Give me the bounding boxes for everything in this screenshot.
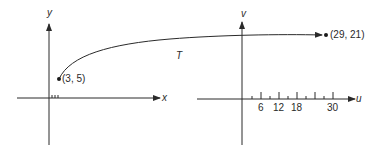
diagram-graphics <box>0 0 377 154</box>
u-tick-label-12: 12 <box>273 103 284 113</box>
end-point-label: (29, 21) <box>330 30 364 40</box>
start-point-label: (3, 5) <box>62 74 85 84</box>
transformation-label: T <box>176 51 182 61</box>
right-axes <box>197 22 355 145</box>
v-axis-label: v <box>241 9 246 19</box>
x-axis-label: x <box>162 93 167 103</box>
end-point <box>324 33 328 37</box>
y-axis-label: y <box>47 8 52 18</box>
transformation-curve <box>59 35 322 79</box>
start-point <box>57 77 61 81</box>
u-axis-label: u <box>356 94 362 104</box>
transformation-diagram: y x (3, 5) T v u (29, 21) 6 12 18 30 <box>0 0 377 154</box>
u-axis-ticks <box>252 92 333 99</box>
u-tick-label-18: 18 <box>291 103 302 113</box>
u-tick-label-6: 6 <box>258 103 264 113</box>
u-tick-label-30: 30 <box>327 103 338 113</box>
